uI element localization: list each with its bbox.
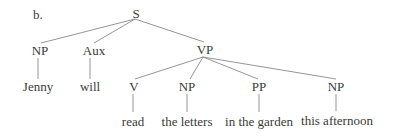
leaf-in-the-garden: in the garden [225, 115, 293, 129]
node-v: V [129, 80, 138, 94]
leaf-jenny: Jenny [23, 80, 53, 94]
example-label: b. [33, 8, 43, 22]
node-np-object: NP [179, 80, 196, 94]
leaf-read: read [122, 115, 144, 129]
edge-s-aux [94, 19, 135, 43]
edge-s-vp [135, 19, 204, 42]
node-s: S [132, 7, 139, 21]
node-np-time: NP [328, 80, 345, 94]
edge-vp-v [135, 57, 203, 79]
node-aux: Aux [83, 44, 105, 58]
node-np-subject: NP [32, 44, 49, 58]
edge-s-np [41, 19, 135, 43]
edge-vp-pp [203, 57, 258, 79]
edge-vp-np-time [203, 57, 336, 79]
leaf-this-afternoon: this afternoon [301, 114, 373, 128]
leaf-the-letters: the letters [162, 115, 213, 129]
node-pp: PP [252, 80, 266, 94]
node-vp: VP [197, 43, 214, 57]
leaf-will: will [80, 80, 100, 94]
